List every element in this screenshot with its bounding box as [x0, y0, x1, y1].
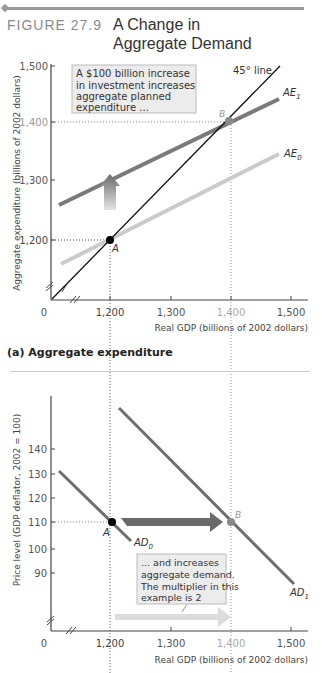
- bottom-y-axis-title: Price level (GDP deflator, 2002 = 100): [12, 414, 22, 587]
- bottom-y-tick-label: 110: [28, 517, 47, 528]
- bottom-x-tick-label: 1,300: [157, 638, 186, 649]
- bottom-x-axis-title: Real GDP (billions of 2002 dollars): [155, 655, 308, 665]
- ae1-line: [59, 99, 279, 205]
- bottom-y-tick-label: 100: [28, 544, 47, 555]
- ad0-label: AD0: [133, 537, 154, 551]
- ae1-label: AE1: [282, 87, 301, 101]
- panel-divider: [10, 371, 310, 372]
- ae0-label: AE0: [283, 148, 302, 162]
- top-x-tick-label: 1,200: [96, 307, 125, 318]
- top-y-tick-label: 1,400: [19, 117, 48, 128]
- point-b-top-label: B: [219, 109, 225, 119]
- figure-canvas: Aggregate expenditure (billions of 2002 …: [0, 0, 322, 673]
- point-b-top: [225, 117, 233, 125]
- panel-a-caption: (a) Aggregate expenditure: [7, 346, 173, 359]
- bottom-x-tick-label: 1,200: [96, 638, 125, 649]
- bottom-x-tick-label: 0: [41, 638, 47, 649]
- line-45-label: 45° line: [233, 65, 272, 76]
- top-y-tick-label: 1,300: [19, 175, 48, 186]
- top-x-tick-label: 0: [41, 307, 47, 318]
- top-x-tick-label: 1,300: [157, 307, 186, 318]
- note-pointer: [182, 604, 187, 612]
- top-y-axis-break: [46, 282, 53, 291]
- top-y-tick-label: 1,500: [19, 61, 48, 72]
- top-x-axis-title: Real GDP (billions of 2002 dollars): [155, 323, 308, 333]
- top-y-tick-label: 1,200: [19, 235, 48, 246]
- up-shift-arrow: [100, 174, 120, 210]
- top-x-tick-label: 1,400: [217, 307, 246, 318]
- top-x-tick-label: 1,500: [277, 307, 306, 318]
- bottom-y-tick-label: 90: [34, 568, 47, 579]
- point-b-bottom-label: B: [235, 510, 241, 520]
- bottom-x-tick-label: 1,400: [217, 638, 246, 649]
- point-a-top-label: A: [111, 243, 119, 254]
- point-a-bottom: [108, 518, 116, 526]
- bottom-y-tick-label: 120: [28, 493, 47, 504]
- ad0-line: [59, 471, 131, 541]
- bottom-y-tick-label: 140: [28, 444, 47, 455]
- bottom-x-tick-label: 1,500: [277, 638, 306, 649]
- ad1-label: AD1: [289, 587, 309, 601]
- point-a-bottom-label: A: [102, 527, 110, 538]
- right-shift-arrow: [121, 512, 223, 532]
- ae0-line: [61, 154, 279, 264]
- point-b-bottom: [227, 518, 235, 526]
- multiplier-arrow: [115, 607, 231, 627]
- chart-aggregate-demand: Price level (GDP deflator, 2002 = 100) 1…: [12, 396, 309, 665]
- bottom-y-tick-label: 130: [28, 469, 47, 480]
